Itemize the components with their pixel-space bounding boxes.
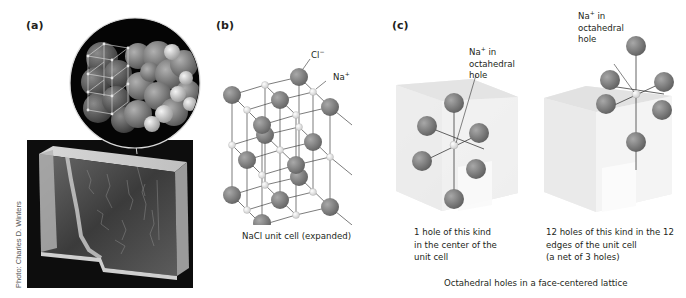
panel-c-label: (c)	[392, 19, 409, 32]
sodium-charge: +	[345, 70, 350, 77]
chloride-charge: −	[319, 48, 324, 55]
center-hole-caption: 1 hole of this kind in the center of the…	[414, 226, 497, 264]
photo-credit: Photo: Charles D. Winters	[14, 201, 23, 288]
sodium-ion-label: Na+	[333, 70, 350, 82]
left-label-line3: hole	[469, 70, 515, 82]
sodium-symbol: Na	[333, 72, 345, 82]
magnified-ion-packing-inset	[68, 16, 202, 150]
chloride-ion-label: Cl−	[311, 48, 324, 60]
right-label-line2: octahedral	[578, 23, 624, 35]
left-na-octahedral-label: Na+ in octahedral hole	[469, 43, 515, 82]
octahedral-hole-edge-diagram	[540, 30, 686, 220]
panel-a-label: (a)	[26, 19, 43, 32]
right-label-line3: hole	[578, 34, 624, 46]
octahedral-hole-center-diagram	[392, 75, 532, 215]
left-label-line2: octahedral	[469, 59, 515, 71]
left-label-line1: Na+ in	[469, 43, 515, 59]
edge-holes-caption: 12 holes of this kind in the 12 edges of…	[546, 226, 674, 264]
octahedral-holes-footer: Octahedral holes in a face-centered latt…	[444, 277, 628, 290]
right-na-octahedral-label: Na+ in octahedral hole	[578, 7, 624, 46]
nacl-crystal-photo	[27, 140, 193, 288]
right-label-line1: Na+ in	[578, 7, 624, 23]
panel-b-label: (b)	[216, 19, 234, 32]
unit-cell-caption: NaCl unit cell (expanded)	[242, 230, 351, 243]
